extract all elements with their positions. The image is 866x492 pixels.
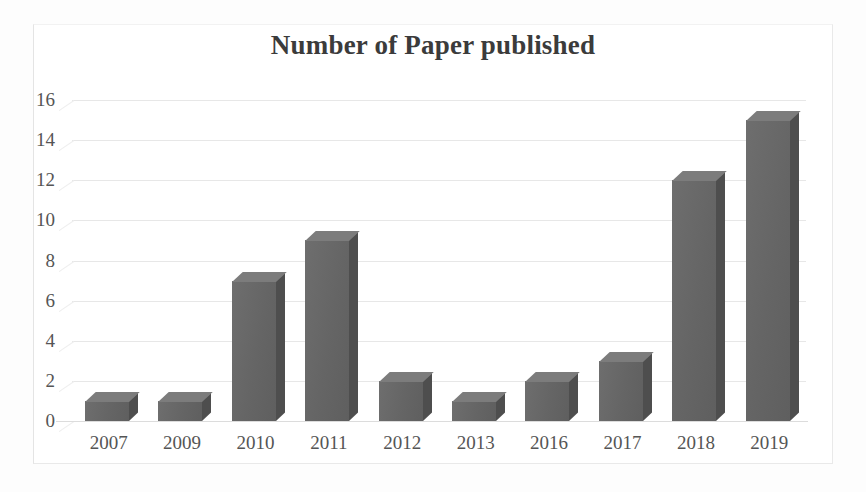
bar-2010[interactable]	[232, 281, 276, 421]
bar-front-face	[452, 401, 496, 421]
bar-front-face	[379, 381, 423, 421]
y-axis-tick-label: 8	[46, 250, 56, 272]
x-axis-ticks: 2007200920102011201220132016201720182019	[72, 432, 806, 462]
bar-2013[interactable]	[452, 401, 496, 421]
y-axis-tick-label: 14	[36, 129, 55, 151]
bar-2019[interactable]	[746, 120, 790, 421]
bar-side-face	[716, 172, 725, 421]
chart-page: Number of Paper published 0246810121416 …	[0, 0, 866, 492]
bar-slot	[586, 100, 659, 421]
bar-front-face	[525, 381, 569, 421]
bar-front-face	[85, 401, 129, 421]
bar-front-face	[305, 240, 349, 421]
bar-slot	[219, 100, 292, 421]
bar-front-face	[599, 361, 643, 421]
bar-slot	[659, 100, 732, 421]
bar-front-face	[158, 401, 202, 421]
bar-2016[interactable]	[525, 381, 569, 421]
y-axis-tick-label: 16	[36, 89, 55, 111]
bar-slot	[512, 100, 585, 421]
bar-slot	[366, 100, 439, 421]
bar-side-face	[643, 352, 652, 421]
bar-side-face	[349, 232, 358, 421]
y-axis-tick-label: 4	[46, 330, 56, 352]
x-axis-tick-label: 2013	[439, 432, 512, 454]
bar-slot	[72, 100, 145, 421]
bar-slot	[292, 100, 365, 421]
bar-front-face	[232, 281, 276, 421]
bar-slot	[145, 100, 218, 421]
bar-2007[interactable]	[85, 401, 129, 421]
y-axis-tick-label: 0	[46, 410, 56, 432]
y-axis-tick-label: 10	[36, 209, 55, 231]
x-axis-tick-label: 2011	[292, 432, 365, 454]
y-axis-tick-label: 12	[36, 169, 55, 191]
axis-baseline	[56, 421, 808, 422]
bar-2018[interactable]	[672, 180, 716, 421]
x-axis-tick-label: 2016	[512, 432, 585, 454]
bar-slot	[439, 100, 512, 421]
x-axis-tick-label: 2017	[586, 432, 659, 454]
x-axis-tick-label: 2012	[366, 432, 439, 454]
bar-side-face	[790, 112, 799, 421]
x-axis-tick-label: 2010	[219, 432, 292, 454]
bar-2009[interactable]	[158, 401, 202, 421]
x-axis-tick-label: 2019	[733, 432, 806, 454]
x-axis-tick-label: 2009	[145, 432, 218, 454]
x-axis-tick-label: 2018	[659, 432, 732, 454]
bar-2011[interactable]	[305, 240, 349, 421]
y-axis-tick-label: 6	[46, 290, 56, 312]
bar-front-face	[746, 120, 790, 421]
x-axis-tick-label: 2007	[72, 432, 145, 454]
y-axis-tick-label: 2	[46, 370, 56, 392]
plot-area: 0246810121416	[72, 100, 806, 421]
bar-slot	[733, 100, 806, 421]
bar-side-face	[276, 272, 285, 421]
bar-2012[interactable]	[379, 381, 423, 421]
bar-2017[interactable]	[599, 361, 643, 421]
bar-front-face	[672, 180, 716, 421]
chart-title: Number of Paper published	[0, 30, 866, 61]
